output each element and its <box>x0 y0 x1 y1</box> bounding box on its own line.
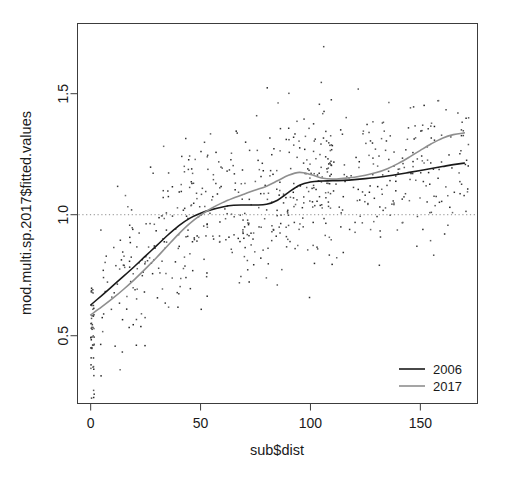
scatter-point <box>340 212 342 214</box>
scatter-point <box>307 168 309 170</box>
scatter-point <box>333 161 335 163</box>
scatter-point <box>177 306 179 308</box>
scatter-point <box>327 171 329 173</box>
scatter-point <box>293 192 295 194</box>
scatter-point <box>364 194 366 196</box>
scatter-point <box>127 206 129 208</box>
scatter-point <box>463 195 465 197</box>
scatter-point <box>328 201 330 203</box>
scatter-point <box>279 182 281 184</box>
scatter-point <box>103 270 105 272</box>
scatter-point <box>451 167 453 169</box>
scatter-point <box>235 130 237 132</box>
scatter-point <box>93 393 95 395</box>
scatter-point <box>207 169 209 171</box>
scatter-point <box>320 167 322 169</box>
scatter-point <box>327 158 329 160</box>
scatter-point <box>273 229 275 231</box>
scatter-point <box>91 397 93 399</box>
scatter-point <box>190 205 192 207</box>
scatter-point <box>373 221 375 223</box>
scatter-point <box>90 337 92 339</box>
scatter-point <box>465 164 467 166</box>
scatter-point <box>372 142 374 144</box>
scatter-point <box>136 319 138 321</box>
scatter-point <box>336 257 338 259</box>
scatter-point <box>102 331 104 333</box>
scatter-point <box>267 248 269 250</box>
scatter-point <box>302 217 304 219</box>
scatter-point <box>191 181 193 183</box>
scatter-point <box>313 173 315 175</box>
scatter-point <box>331 99 333 101</box>
scatter-point <box>381 194 383 196</box>
scatter-point <box>263 193 265 195</box>
scatter-point <box>359 216 361 218</box>
legend-label-2006: 2006 <box>433 362 462 377</box>
scatter-point <box>244 247 246 249</box>
scatter-point <box>429 212 431 214</box>
scatter-point <box>245 141 247 143</box>
scatter-point <box>199 206 201 208</box>
scatter-point <box>210 133 212 135</box>
scatter-point <box>344 164 346 166</box>
scatter-point <box>321 204 323 206</box>
scatter-point <box>362 222 364 224</box>
scatter-point <box>377 186 379 188</box>
scatter-point <box>430 240 432 242</box>
scatter-point <box>134 289 136 291</box>
scatter-point <box>126 296 128 298</box>
scatter-point <box>441 134 443 136</box>
scatter-point <box>126 308 128 310</box>
scatter-point <box>342 133 344 135</box>
scatter-point <box>410 173 412 175</box>
scatter-point <box>248 224 250 226</box>
scatter-point <box>268 192 270 194</box>
scatter-point <box>398 169 400 171</box>
scatter-point <box>220 186 222 188</box>
scatter-point <box>309 163 311 165</box>
scatter-point <box>447 225 449 227</box>
scatter-point <box>252 238 254 240</box>
scatter-point <box>181 191 183 193</box>
scatter-point <box>276 188 278 190</box>
scatter-point <box>343 252 345 254</box>
scatter-point <box>207 156 209 158</box>
scatter-point <box>138 232 140 234</box>
scatter-point <box>288 128 290 129</box>
scatter-point <box>123 255 125 257</box>
scatter-point <box>226 170 228 172</box>
scatter-point <box>100 375 102 377</box>
scatter-point <box>260 176 262 178</box>
scatter-point <box>379 230 381 232</box>
scatter-point <box>93 375 95 377</box>
scatter-point <box>388 171 390 173</box>
scatter-point <box>192 173 194 175</box>
scatter-point <box>391 203 393 205</box>
scatter-point <box>206 295 208 297</box>
scatter-point <box>290 197 292 199</box>
scatter-point <box>149 257 151 259</box>
scatter-point <box>141 313 143 315</box>
scatter-point <box>385 207 387 209</box>
x-tick-label: 50 <box>193 415 209 431</box>
scatter-point <box>144 345 146 347</box>
scatter-point <box>287 212 289 214</box>
scatter-point <box>273 148 275 150</box>
scatter-point <box>253 264 255 266</box>
scatter-point <box>413 138 415 140</box>
scatter-point <box>323 111 325 113</box>
scatter-point <box>321 82 323 84</box>
scatter-point <box>468 144 470 146</box>
scatter-point <box>147 260 149 262</box>
scatter-point <box>386 140 388 142</box>
scatter-point <box>309 297 311 299</box>
scatter-point <box>393 202 395 204</box>
scatter-point <box>309 200 311 202</box>
scatter-point <box>430 162 432 164</box>
scatter-point <box>154 224 156 226</box>
scatter-point <box>359 199 361 201</box>
scatter-point <box>123 265 125 267</box>
scatter-point <box>165 302 167 304</box>
scatter-point <box>259 169 261 171</box>
